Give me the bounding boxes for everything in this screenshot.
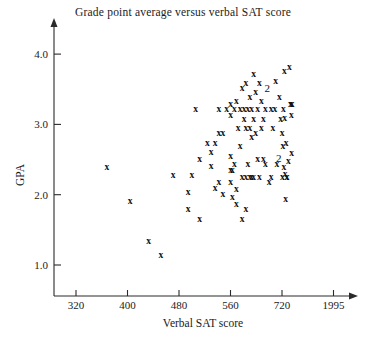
data-point-marker: x (263, 159, 268, 169)
data-point-marker: x (284, 138, 289, 148)
data-point-marker: x (283, 194, 288, 204)
data-point-marker: x (287, 62, 292, 72)
data-point-marker: x (193, 104, 198, 114)
x-tick-label: 720 (274, 299, 291, 311)
data-point-marker: x (217, 104, 222, 114)
plot-canvas: 3204004805607201995 1.02.03.04.0 xxxxxxx… (0, 0, 366, 337)
y-tick-label: 3.0 (34, 118, 48, 130)
data-point-marker: x (244, 204, 249, 214)
data-point-marker: x (290, 99, 295, 109)
data-point-marker: x (220, 189, 225, 199)
data-point-marker: x (253, 87, 258, 97)
data-point-marker: x (220, 128, 225, 138)
x-tick-label: 480 (171, 299, 188, 311)
data-point-marker: x (209, 161, 214, 171)
data-point-marker: x (253, 128, 258, 138)
y-tick-label: 2.0 (34, 189, 48, 201)
data-point-marker: x (251, 69, 256, 79)
axes-group (51, 18, 359, 300)
x-tick-group: 3204004805607201995 (68, 290, 345, 311)
data-points-layer: xxxxxxxxxxxxxxxxxxxxxxxxxxxxxxxxxxxxxxxx… (105, 62, 295, 260)
data-point-marker: x (128, 196, 133, 206)
data-point-marker: x (171, 170, 176, 180)
x-tick-label: 400 (119, 299, 136, 311)
data-point-marker: x (234, 199, 239, 209)
y-tick-group: 1.02.03.04.0 (34, 48, 61, 271)
data-point-marker: x (286, 156, 291, 166)
data-point-marker: x (257, 78, 262, 88)
y-axis-title: GPA (14, 163, 26, 186)
data-point-marker: x (277, 92, 282, 102)
data-point-marker: x (280, 128, 285, 138)
data-point-marker: x (186, 187, 191, 197)
data-point-marker: x (267, 177, 272, 187)
data-point-marker: x (236, 123, 241, 133)
data-point-marker: x (246, 159, 251, 169)
data-point-marker: x (146, 236, 151, 246)
x-tick-label: 1995 (323, 299, 346, 311)
data-point-marker: x (261, 114, 266, 124)
data-point-marker: x (186, 204, 191, 214)
data-point-marker: x (190, 170, 195, 180)
x-axis-title: Verbal SAT score (163, 317, 243, 329)
data-point-marker: x (257, 172, 262, 182)
data-point-marker: x (238, 141, 243, 151)
data-point-marker: x (273, 104, 278, 114)
x-tick-label: 320 (68, 299, 85, 311)
data-point-marker: x (197, 214, 202, 224)
x-tick-label: 560 (222, 299, 239, 311)
data-point-marker: x (234, 184, 239, 194)
data-point-marker: x (273, 76, 278, 86)
data-point-marker: x (244, 78, 249, 88)
data-point-marker: x (263, 104, 268, 114)
data-point-marker: x (247, 92, 252, 102)
data-point-marker: x (159, 250, 164, 260)
data-point-marker: x (251, 114, 256, 124)
data-point-marker: x (213, 138, 218, 148)
data-point-marker: x (271, 123, 276, 133)
data-point-marker: x (217, 177, 222, 187)
data-point-count-label: 2 (264, 82, 270, 94)
y-tick-label: 4.0 (34, 48, 48, 60)
scatter-plot-figure: Grade point average versus verbal SAT sc… (0, 0, 366, 337)
y-axis-arrowhead (51, 18, 58, 27)
y-tick-label: 1.0 (34, 259, 48, 271)
data-point-marker: x (289, 110, 294, 120)
data-point-marker: x (282, 113, 287, 123)
data-point-marker: x (240, 214, 245, 224)
x-axis-arrowhead (349, 293, 358, 300)
data-point-marker: x (255, 154, 260, 164)
data-point-marker: x (232, 159, 237, 169)
data-point-marker: x (228, 177, 233, 187)
data-point-marker: x (197, 154, 202, 164)
data-point-marker: x (249, 104, 254, 114)
data-point-marker: x (251, 172, 256, 182)
data-point-marker: x (285, 172, 290, 182)
data-point-marker: x (105, 162, 110, 172)
